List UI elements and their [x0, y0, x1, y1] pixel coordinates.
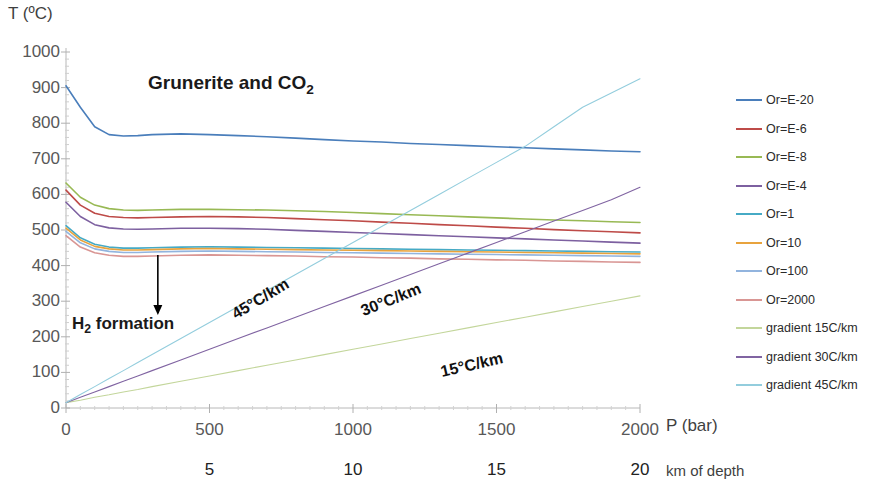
- legend-item[interactable]: gradient 45C/km: [736, 371, 892, 400]
- legend-item-label: Or=100: [766, 264, 808, 278]
- legend-item[interactable]: Or=1: [736, 200, 892, 229]
- legend-item-label: Or=E-8: [766, 150, 807, 164]
- legend-color-swatch: [736, 356, 762, 358]
- legend-color-swatch: [736, 99, 762, 101]
- h2-formation-arrow: [153, 255, 162, 315]
- legend-item-label: gradient 30C/km: [766, 350, 858, 364]
- depth-tick-label: 20: [631, 460, 650, 480]
- legend-color-swatch: [736, 242, 762, 244]
- legend-item[interactable]: Or=E-6: [736, 115, 892, 144]
- legend-color-swatch: [736, 384, 762, 386]
- annotation-grunerite: Grunerite and CO2: [148, 72, 314, 97]
- x-tick-label: 0: [61, 420, 70, 440]
- series-line-or-e-8: [66, 183, 640, 223]
- legend-color-swatch: [736, 270, 762, 272]
- legend-item-label: Or=10: [766, 236, 801, 250]
- depth-axis-title: km of depth: [666, 462, 744, 479]
- legend-item-label: Or=1: [766, 207, 794, 221]
- legend-color-swatch: [736, 299, 762, 301]
- legend-item-label: Or=E-6: [766, 122, 807, 136]
- depth-tick-label: 5: [205, 460, 214, 480]
- legend-item-label: Or=E-4: [766, 179, 807, 193]
- x-tick-label: 1000: [334, 420, 372, 440]
- legend-color-swatch: [736, 128, 762, 130]
- legend-item-label: gradient 15C/km: [766, 321, 858, 335]
- legend-item[interactable]: gradient 30C/km: [736, 343, 892, 372]
- depth-tick-label: 10: [344, 460, 363, 480]
- annotation-h2-formation: H2 formation: [72, 314, 174, 336]
- x-axis-title: P (bar): [666, 416, 718, 436]
- legend-item-label: Or=2000: [766, 293, 815, 307]
- legend-item[interactable]: Or=2000: [736, 286, 892, 315]
- legend-item[interactable]: Or=E-4: [736, 172, 892, 201]
- legend-item[interactable]: gradient 15C/km: [736, 314, 892, 343]
- legend-color-swatch: [736, 185, 762, 187]
- legend-item-label: Or=E-20: [766, 93, 814, 107]
- series-line-or-e-4: [66, 202, 640, 243]
- legend-color-swatch: [736, 327, 762, 329]
- legend-item[interactable]: Or=E-20: [736, 86, 892, 115]
- series-line-or-e-6: [66, 190, 640, 233]
- legend-color-swatch: [736, 213, 762, 215]
- legend-item[interactable]: Or=10: [736, 229, 892, 258]
- x-tick-label: 500: [195, 420, 223, 440]
- legend-item[interactable]: Or=100: [736, 257, 892, 286]
- chart-legend: Or=E-20Or=E-6Or=E-8Or=E-4Or=1Or=10Or=100…: [736, 86, 892, 400]
- chart-figure: T (ºC) 01002003004005006007008009001000 …: [0, 0, 894, 490]
- legend-item-label: gradient 45C/km: [766, 378, 858, 392]
- legend-item[interactable]: Or=E-8: [736, 143, 892, 172]
- depth-tick-label: 15: [487, 460, 506, 480]
- x-tick-label: 1500: [478, 420, 516, 440]
- series-line-gradient-15c-km: [66, 296, 640, 403]
- legend-color-swatch: [736, 156, 762, 158]
- x-tick-label: 2000: [621, 420, 659, 440]
